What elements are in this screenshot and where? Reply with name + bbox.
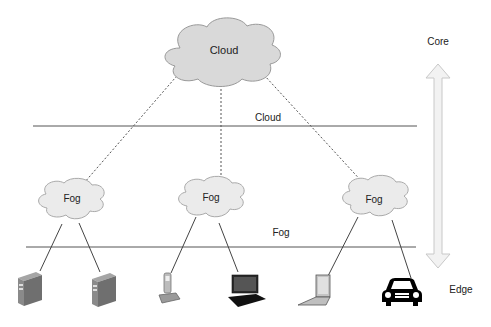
- phone-icon: [159, 273, 180, 303]
- fog-layer-label: Fog: [272, 227, 289, 238]
- cloud-node-label: Cloud: [210, 44, 239, 56]
- cloud-node: Cloud: [165, 18, 280, 87]
- fog-node-1: Fog: [39, 178, 105, 218]
- server-icon: [18, 272, 42, 306]
- core-label: Core: [427, 36, 449, 47]
- fog-node-label: Fog: [365, 194, 382, 205]
- cloud-fog-links: [84, 70, 365, 185]
- edge-label: Edge: [449, 284, 473, 295]
- fog-node-label: Fog: [63, 193, 80, 204]
- fog-node-2: Fog: [179, 176, 245, 216]
- car-icon: [382, 278, 422, 306]
- fog-node-3: Fog: [343, 175, 409, 215]
- architecture-diagram: Cloud Fog Fog Fog Cloud Fog Core Edge: [0, 0, 491, 327]
- laptop-light-icon: [298, 275, 330, 305]
- fog-node-label: Fog: [202, 192, 219, 203]
- cloud-layer-label: Cloud: [255, 112, 281, 123]
- laptop-dark-icon: [228, 275, 266, 307]
- core-edge-arrow-icon: [426, 64, 450, 268]
- server-icon: [92, 273, 116, 307]
